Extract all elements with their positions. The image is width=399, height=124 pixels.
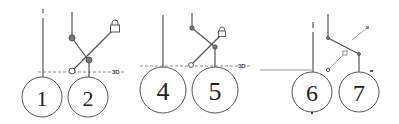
circle-label: 5 bbox=[209, 77, 222, 106]
joint-dot bbox=[69, 35, 75, 41]
lock-icon bbox=[111, 20, 120, 32]
diagonal-line bbox=[73, 30, 113, 70]
end-marker bbox=[370, 70, 373, 72]
panel-2: 3D 4 5 bbox=[140, 13, 250, 113]
lock-icon bbox=[219, 27, 226, 37]
joint-dot bbox=[86, 57, 92, 63]
circle-label: 2 bbox=[83, 86, 94, 111]
open-joint bbox=[69, 68, 75, 74]
open-joint bbox=[189, 63, 194, 68]
joint-dot bbox=[358, 53, 361, 56]
lock-icon bbox=[343, 51, 347, 55]
joint-dot bbox=[213, 45, 217, 49]
open-joint bbox=[326, 68, 329, 71]
panel-3: 6 7 bbox=[260, 14, 379, 114]
joint-dot bbox=[190, 26, 194, 30]
circle-label: 1 bbox=[37, 86, 48, 111]
short-diagonal bbox=[352, 28, 367, 40]
baseline-label: 3D bbox=[238, 63, 246, 69]
panel-1: 3D 1 2 bbox=[22, 9, 126, 117]
end-marker bbox=[366, 26, 369, 29]
link-line bbox=[72, 38, 89, 61]
lower-diagonal bbox=[328, 54, 344, 70]
circle-label: 4 bbox=[157, 77, 170, 106]
diagram-canvas: 3D 1 2 3D bbox=[0, 0, 399, 124]
baseline-label: 3D bbox=[112, 69, 120, 75]
joint-dot bbox=[327, 37, 330, 40]
circle-label: 6 bbox=[306, 80, 318, 106]
circle-label: 7 bbox=[353, 80, 365, 106]
